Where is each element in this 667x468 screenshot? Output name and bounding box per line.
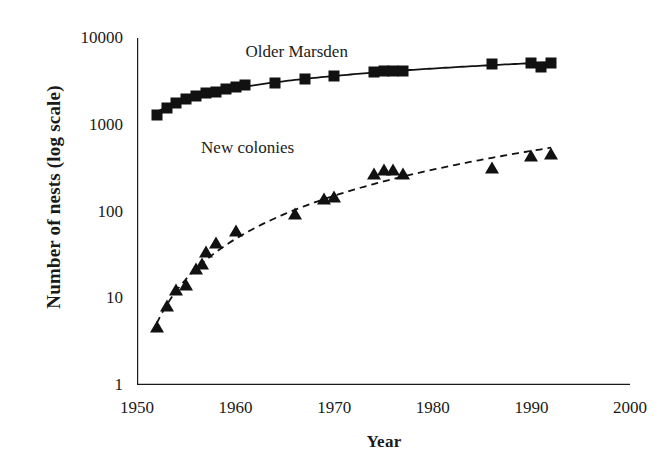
data-point-triangle — [209, 237, 223, 249]
data-point-triangle — [160, 299, 174, 311]
data-point-triangle — [524, 149, 538, 161]
x-tick-label: 1980 — [416, 398, 450, 418]
data-point-square — [398, 65, 409, 76]
x-tick-label: 1990 — [514, 398, 548, 418]
data-point-triangle — [288, 208, 302, 220]
y-tick-label: 100 — [67, 202, 123, 222]
data-point-triangle — [229, 225, 243, 237]
data-point-square — [240, 80, 251, 91]
y-tick-label: 10000 — [67, 28, 123, 48]
x-tick-label: 1960 — [219, 398, 253, 418]
data-point-square — [546, 57, 557, 68]
data-point-triangle — [179, 278, 193, 290]
y-axis-title: Number of nests (log scale) — [43, 47, 65, 347]
data-point-triangle — [396, 167, 410, 179]
y-tick-label: 1000 — [67, 115, 123, 135]
data-point-triangle — [150, 321, 164, 333]
data-point-triangle — [327, 190, 341, 202]
chart-figure: Number of nests (log scale) Year 1101001… — [0, 0, 667, 468]
data-point-square — [270, 78, 281, 89]
y-tick-label: 10 — [67, 288, 123, 308]
x-tick-label: 1970 — [317, 398, 351, 418]
data-point-triangle — [485, 161, 499, 173]
data-point-square — [486, 59, 497, 70]
x-tick-label: 2000 — [613, 398, 647, 418]
x-axis-title: Year — [137, 432, 631, 452]
data-point-square — [299, 73, 310, 84]
series-annotation-2: New colonies — [201, 138, 294, 158]
series-annotation-1: Older Marsden — [245, 42, 347, 62]
data-point-triangle — [544, 147, 558, 159]
data-point-triangle — [195, 258, 209, 270]
x-tick-label: 1950 — [120, 398, 154, 418]
y-tick-label: 1 — [67, 375, 123, 395]
data-point-square — [329, 71, 340, 82]
